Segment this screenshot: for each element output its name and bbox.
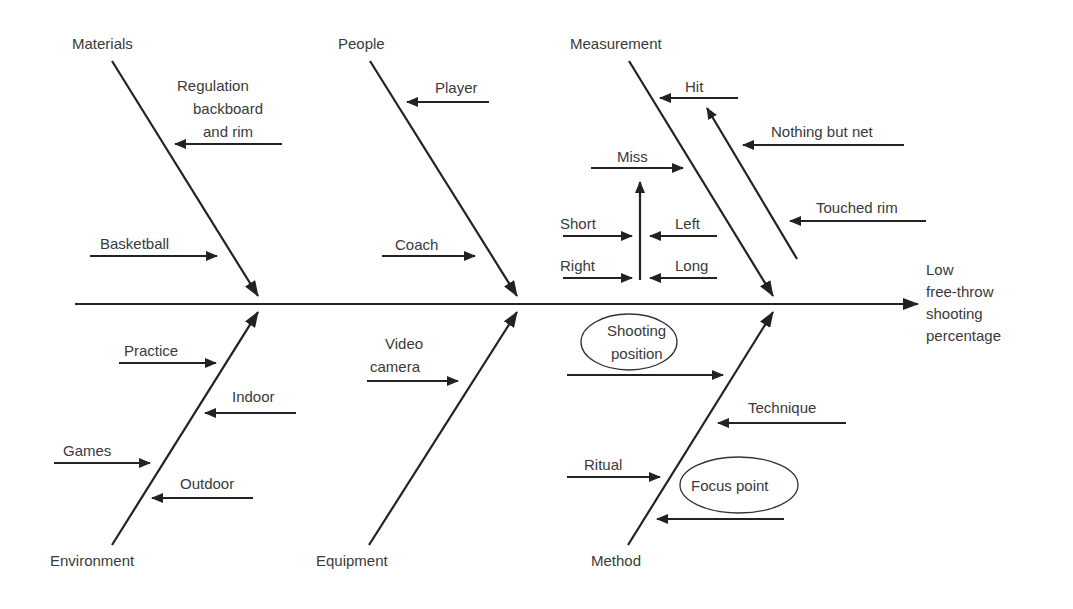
cause-label: Player (435, 79, 478, 96)
cause-label: Long (675, 257, 708, 274)
cause-label: Nothing but net (771, 123, 874, 140)
cause-label: and rim (203, 123, 253, 140)
cause-label: Short (560, 215, 597, 232)
cause-label: Outdoor (180, 475, 234, 492)
cause-label: position (611, 345, 663, 362)
cause-label: camera (370, 358, 421, 375)
cause-label: Video (385, 335, 423, 352)
category-label-method: Method (591, 552, 641, 569)
bone-arrow-materials (112, 61, 258, 296)
cause-label: Coach (395, 236, 438, 253)
category-label-measurement: Measurement (570, 35, 663, 52)
effect-label: Low (926, 261, 954, 278)
cause-label: Right (560, 257, 596, 274)
cause-label: Games (63, 442, 111, 459)
bone-arrow-people (370, 61, 517, 296)
cause-label: Ritual (584, 456, 622, 473)
cause-label: Practice (124, 342, 178, 359)
cause-label: Indoor (232, 388, 275, 405)
cause-label: Technique (748, 399, 816, 416)
fishbone-diagram: Lowfree-throwshootingpercentageMaterials… (0, 0, 1073, 609)
category-label-environment: Environment (50, 552, 135, 569)
cause-label: backboard (193, 100, 263, 117)
cause-label: Miss (617, 148, 648, 165)
cause-label: Basketball (100, 235, 169, 252)
cause-label: Touched rim (816, 199, 898, 216)
effect-label: percentage (926, 327, 1001, 344)
cause-label: Focus point (691, 477, 769, 494)
cause-label: Regulation (177, 77, 249, 94)
cause-label: Left (675, 215, 701, 232)
category-label-equipment: Equipment (316, 552, 389, 569)
diagram-canvas: Lowfree-throwshootingpercentageMaterials… (0, 0, 1073, 609)
category-label-materials: Materials (72, 35, 133, 52)
effect-label: shooting (926, 305, 983, 322)
category-label-people: People (338, 35, 385, 52)
cause-label: Hit (685, 78, 704, 95)
cause-label: Shooting (607, 322, 666, 339)
effect-label: free-throw (926, 283, 994, 300)
